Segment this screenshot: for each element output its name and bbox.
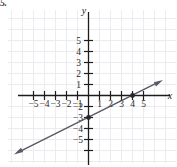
x-tick-label: −4 [39, 99, 49, 109]
graph-figure: 5. [0, 0, 177, 167]
x-tick-label: −5 [28, 99, 38, 109]
y-tick-label: 2 [76, 69, 81, 79]
y-tick-label: −4 [73, 124, 83, 134]
coordinate-plane-chart: −5 −4 −3 −2 −1 1 2 3 4 5 5 4 3 2 1 −2 −3… [0, 0, 177, 167]
x-tick-label: 5 [141, 99, 146, 109]
x-tick-label: −2 [61, 99, 71, 109]
x-axis-label: x [167, 90, 173, 101]
x-tick-label: 4 [130, 99, 135, 109]
y-tick-label: 3 [76, 58, 81, 68]
y-tick-label: 1 [76, 80, 81, 90]
data-point-marker [130, 93, 135, 98]
y-tick-label: −3 [73, 113, 83, 123]
data-point-marker [86, 115, 91, 120]
y-axis-label: y [81, 5, 87, 16]
y-tick-label: −2 [73, 102, 83, 112]
y-tick-label: 4 [76, 47, 81, 57]
y-tick-label: −5 [73, 135, 83, 145]
y-tick-label: 5 [76, 36, 81, 46]
x-tick-label: −3 [50, 99, 60, 109]
x-tick-label: 1 [97, 99, 102, 109]
